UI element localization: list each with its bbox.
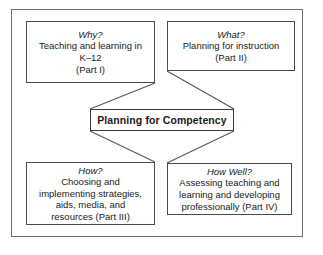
node-why-line-3: (Part I) <box>39 64 142 76</box>
node-why-line-2: K–12 <box>39 52 142 64</box>
node-why-question: Why? <box>78 29 102 41</box>
center-node-label: Planning for Competency <box>97 114 226 127</box>
node-how-well-line-3: professionally (Part IV) <box>179 201 280 213</box>
node-how-well-question: How Well? <box>207 166 252 178</box>
node-how-well-line-2: learning and developing <box>179 189 280 201</box>
node-how-well-line-1: Assessing teaching and <box>179 177 280 189</box>
node-planning-for-competency[interactable]: Planning for Competency <box>90 109 234 131</box>
node-how-line-3: aids, media, and <box>39 199 142 211</box>
node-how-body: Choosing and implementing strategies, ai… <box>39 176 142 222</box>
node-how-well-body: Assessing teaching and learning and deve… <box>179 177 280 212</box>
node-how[interactable]: How? Choosing and implementing strategie… <box>26 162 155 225</box>
node-what[interactable]: What? Planning for instruction (Part II) <box>167 21 295 71</box>
node-why-line-1: Teaching and learning in <box>39 40 142 52</box>
node-what-line-2: (Part II) <box>183 52 280 64</box>
diagram-canvas: Why? Teaching and learning in K–12 (Part… <box>0 0 323 255</box>
node-how-question: How? <box>78 165 102 177</box>
node-how-well[interactable]: How Well? Assessing teaching and learnin… <box>167 163 292 215</box>
node-what-line-1: Planning for instruction <box>183 40 280 52</box>
node-how-line-4: resources (Part III) <box>39 211 142 223</box>
node-how-line-1: Choosing and <box>39 176 142 188</box>
node-why-body: Teaching and learning in K–12 (Part I) <box>39 40 142 75</box>
node-why[interactable]: Why? Teaching and learning in K–12 (Part… <box>26 21 155 83</box>
node-what-body: Planning for instruction (Part II) <box>183 40 280 63</box>
node-what-question: What? <box>217 29 244 41</box>
node-how-line-2: implementing strategies, <box>39 188 142 200</box>
